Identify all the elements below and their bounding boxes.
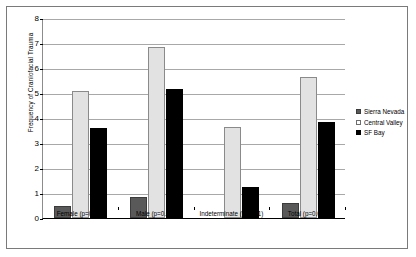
y-axis-tick-label: 1: [19, 190, 39, 198]
bar-group: [195, 19, 271, 218]
legend-swatch-icon: [356, 130, 361, 135]
bar-sf-bay: [166, 89, 183, 218]
legend-item-label: Sierra Nevada: [364, 108, 404, 115]
x-axis-tick-label: Total (p=0.00): [288, 210, 327, 217]
y-axis-tick-label: 6: [19, 65, 39, 73]
bar-sf-bay: [318, 122, 335, 218]
legend-item-label: SF Bay: [364, 129, 385, 136]
y-axis-tick-label: 4: [19, 115, 39, 123]
y-axis-tick-label: 3: [19, 140, 39, 148]
x-axis-tick-label: Indeterminate (p=0.01): [199, 210, 263, 217]
chart-legend: Sierra NevadaCentral ValleySF Bay: [356, 108, 416, 140]
bar-central-valley: [148, 47, 165, 218]
y-axis-tick-label: 0: [19, 215, 39, 223]
y-axis-tick-label: 2: [19, 165, 39, 173]
y-axis-tick-label: 8: [19, 15, 39, 23]
bar-group: [43, 19, 119, 218]
x-axis-tick-mark: [194, 207, 195, 210]
legend-item: Sierra Nevada: [356, 108, 416, 115]
x-axis-tick-mark: [269, 207, 270, 210]
bar-group: [270, 19, 346, 218]
bars-layer: [43, 19, 345, 218]
legend-swatch-icon: [356, 120, 361, 125]
bar-sf-bay: [90, 128, 107, 218]
legend-swatch-icon: [356, 109, 361, 114]
x-axis-tick-mark: [345, 207, 346, 210]
chart-frame: Frequency of Craniofacial Trauma 0123456…: [6, 6, 408, 249]
bar-group: [119, 19, 195, 218]
legend-item: Central Valley: [356, 119, 416, 126]
bar-central-valley: [224, 127, 241, 218]
y-axis-title: Frequency of Craniofacial Trauma: [27, 8, 34, 158]
y-axis-tick-label: 7: [19, 40, 39, 48]
y-axis-tick-label: 5: [19, 90, 39, 98]
x-axis-tick-label: Male (p=0.01): [136, 210, 175, 217]
x-axis-tick-label: Female (p=0.01): [57, 210, 103, 217]
y-axis-tick-mark: [40, 219, 43, 220]
plot-area: 012345678: [42, 19, 345, 219]
bar-central-valley: [300, 77, 317, 218]
bar-central-valley: [72, 91, 89, 219]
legend-item: SF Bay: [356, 129, 416, 136]
legend-item-label: Central Valley: [364, 119, 403, 126]
x-axis-tick-mark: [118, 207, 119, 210]
